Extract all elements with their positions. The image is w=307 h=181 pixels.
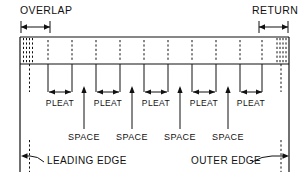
- overlap-label: OVERLAP: [20, 4, 72, 16]
- outer-edge-label: OUTER EDGE: [191, 155, 261, 166]
- leading-edge-label: LEADING EDGE: [47, 155, 127, 166]
- pleat-arrow-2: [97, 89, 119, 94]
- pleat-boundary-lines: [30, 64, 282, 92]
- pleat-arrow-5: [241, 89, 262, 94]
- leading-edge-leader: [21, 140, 44, 172]
- overlap-dimension-arrow: [21, 21, 50, 33]
- return-dimension-arrow: [259, 21, 288, 33]
- pleat-label-5: PLEAT: [237, 98, 265, 108]
- pleat-label-4: PLEAT: [190, 98, 218, 108]
- pleat-arrow-3: [145, 89, 167, 94]
- space-arrow-2: [129, 86, 134, 129]
- space-arrow-3: [177, 86, 182, 129]
- leading-edge-fold-lines: [24, 38, 33, 63]
- pleat-layout-diagram: OVERLAP RETURN: [0, 0, 307, 181]
- space-arrow-4: [225, 86, 230, 129]
- pleat-arrow-1: [49, 89, 71, 94]
- pleat-arrow-4: [193, 89, 215, 94]
- space-label-2: SPACE: [116, 132, 148, 142]
- outer-edge-fold-lines: [277, 38, 286, 63]
- space-label-4: SPACE: [212, 132, 244, 142]
- space-label-1: SPACE: [68, 132, 100, 142]
- pleat-label-2: PLEAT: [94, 98, 122, 108]
- pleat-label-3: PLEAT: [142, 98, 170, 108]
- diagram-canvas: OVERLAP RETURN: [0, 0, 307, 181]
- space-label-3: SPACE: [164, 132, 196, 142]
- space-arrow-1: [81, 86, 86, 129]
- return-label: RETURN: [252, 4, 298, 16]
- pleat-label-1: PLEAT: [46, 98, 74, 108]
- interior-fold-lines: [48, 40, 262, 62]
